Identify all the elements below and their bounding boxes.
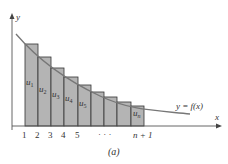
series-diagram: y x y = f(x) 1 2 3 4 5 · · · n + 1 u1 u2… bbox=[0, 0, 228, 164]
tick-2: 2 bbox=[35, 130, 40, 140]
caption: (a) bbox=[108, 146, 120, 158]
tick-4: 4 bbox=[61, 130, 66, 140]
tick-1: 1 bbox=[22, 130, 27, 140]
y-axis-arrow-icon bbox=[10, 13, 15, 19]
tick-3: 3 bbox=[48, 130, 53, 140]
x-axis-label: x bbox=[214, 112, 219, 122]
tick-n-plus-1: n + 1 bbox=[133, 130, 153, 140]
y-axis-label: y bbox=[15, 12, 20, 22]
bar-7 bbox=[104, 97, 117, 126]
tick-5: 5 bbox=[75, 130, 80, 140]
curve-label: y = f(x) bbox=[175, 101, 203, 111]
tick-ellipsis: · · · bbox=[98, 129, 112, 139]
x-axis-arrow-icon bbox=[216, 124, 222, 129]
